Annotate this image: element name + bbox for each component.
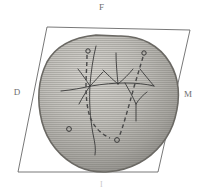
figure-root: F D M I [0,0,203,194]
shaded-region-group [0,0,203,194]
figure-canvas [0,0,203,194]
scanline-texture [0,0,203,194]
